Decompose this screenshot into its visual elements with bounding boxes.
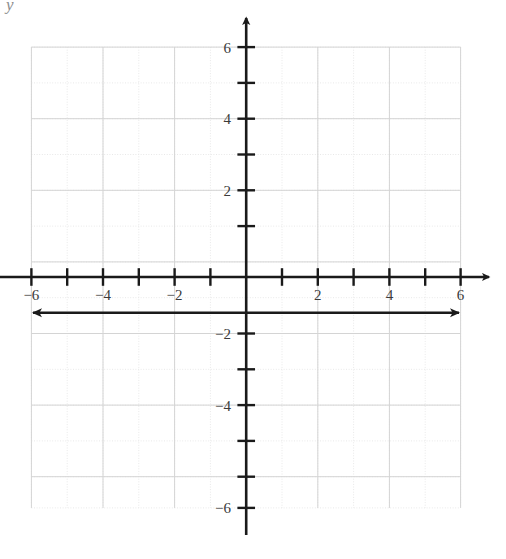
axis-label-y-glyph: y <box>4 0 14 14</box>
y-tick-label-2: 2 <box>224 183 232 199</box>
x-tick-label--2: −2 <box>167 287 183 303</box>
y-tick-label--4: −4 <box>215 398 231 414</box>
x-tick-label--4: −4 <box>95 287 111 303</box>
y-tick-label--2: −2 <box>215 326 231 342</box>
y-tick-label-4: 4 <box>224 111 232 127</box>
y-tick-label--6: −6 <box>215 500 231 516</box>
x-tick-label-6: 6 <box>457 287 465 303</box>
coordinate-plane-figure: −6 −4 −2 2 4 6 6 4 2 −2 −4 −6 y <box>0 0 506 559</box>
x-tick-label--6: −6 <box>23 287 39 303</box>
x-tick-label-4: 4 <box>386 287 394 303</box>
x-tick-label-2: 2 <box>314 287 322 303</box>
y-tick-label-6: 6 <box>224 40 232 56</box>
coordinate-plane-svg: −6 −4 −2 2 4 6 6 4 2 −2 −4 −6 y <box>0 0 506 559</box>
